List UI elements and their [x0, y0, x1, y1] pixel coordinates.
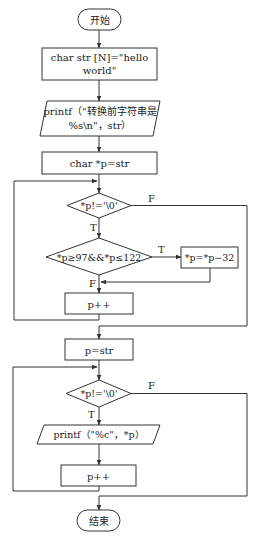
- reset-p-process: p=str: [65, 339, 133, 360]
- cond2-true-label: T: [88, 409, 95, 420]
- cond1-decision: *p!='\0': [67, 193, 131, 218]
- inc2-process: p++: [61, 465, 136, 486]
- print-before-io: printf（"转换前字符串是 %s\n"，str）: [40, 101, 160, 136]
- start-label: 开始: [90, 14, 110, 26]
- init-str-process: char str [N]="hello world": [42, 48, 157, 80]
- to-upper-label: *p=*p−32: [185, 252, 235, 263]
- init-p-process: char *p=str: [42, 152, 157, 174]
- inc1-label: p++: [87, 299, 110, 310]
- init-p-label: char *p=str: [70, 158, 130, 169]
- cond2-label: *p!='\0': [80, 388, 117, 399]
- edge-to-upper-merge: [101, 268, 210, 282]
- cond-lower-true-label: T: [158, 244, 165, 255]
- cond2-false-label: F: [148, 380, 155, 391]
- cond1-label: *p!='\0': [80, 200, 117, 211]
- cond-lower-false-label: F: [89, 278, 96, 289]
- edge-cond1-false: [99, 206, 247, 340]
- init-str-line1: char str [N]="hello: [51, 52, 148, 63]
- print-char-io: printf（"%c"，*p）: [37, 425, 160, 444]
- flowchart: 开始 char str [N]="hello world" printf（"转换…: [0, 0, 256, 539]
- print-before-line2: %s\n"，str）: [69, 120, 132, 131]
- cond-lower-label: *p≥97&&*p≤122: [57, 252, 142, 263]
- cond1-false-label: F: [148, 193, 155, 204]
- cond1-true-label: T: [90, 222, 97, 233]
- end-terminal: 结束: [77, 510, 120, 531]
- cond-lower-decision: *p≥97&&*p≤122: [46, 238, 152, 275]
- end-label: 结束: [89, 515, 109, 527]
- print-before-line1: printf（"转换前字符串是: [43, 105, 156, 117]
- print-char-label: printf（"%c"，*p）: [53, 429, 144, 440]
- to-upper-process: *p=*p−32: [181, 247, 238, 268]
- reset-p-label: p=str: [85, 345, 114, 356]
- init-str-line2: world": [83, 65, 117, 76]
- start-terminal: 开始: [78, 9, 121, 30]
- inc2-label: p++: [87, 471, 110, 482]
- edge-cond2-false: [99, 394, 247, 511]
- inc1-process: p++: [65, 293, 133, 314]
- cond2-decision: *p!='\0': [66, 380, 131, 407]
